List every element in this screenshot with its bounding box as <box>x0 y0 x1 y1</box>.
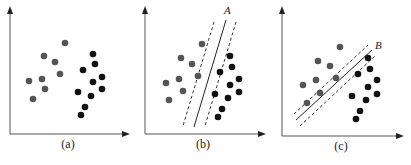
hyperplane-label-b: B <box>375 39 382 51</box>
black-point-b <box>215 114 222 121</box>
black-point-a <box>78 112 85 119</box>
black-point-a <box>75 89 82 96</box>
caption-b: (b) <box>183 137 223 152</box>
black-point-b <box>236 89 243 96</box>
gray-point-a <box>52 59 59 66</box>
black-point-a <box>99 74 106 81</box>
black-point-c <box>374 91 381 98</box>
gray-point-a <box>57 71 64 78</box>
data-points <box>26 40 381 123</box>
gray-point-c <box>327 63 334 70</box>
black-point-c <box>374 77 381 84</box>
black-point-b <box>212 91 219 98</box>
margin-line-b-lower <box>300 55 376 126</box>
black-point-a <box>90 79 97 86</box>
black-point-c <box>365 55 372 62</box>
black-point-c <box>353 116 360 123</box>
gray-point-c <box>333 75 340 82</box>
black-point-a <box>99 86 106 93</box>
panel-a-axes <box>7 6 130 137</box>
black-point-c <box>365 84 372 91</box>
black-point-c <box>363 97 370 104</box>
gray-point-b <box>166 97 173 104</box>
black-point-a <box>92 61 99 68</box>
gray-point-a <box>62 40 69 47</box>
gray-point-c <box>300 82 307 89</box>
black-point-b <box>217 69 224 76</box>
gray-point-c <box>304 100 311 107</box>
hyperplane-a-group <box>183 20 236 127</box>
black-point-a <box>80 67 87 74</box>
black-point-b <box>225 95 232 102</box>
gray-point-b <box>176 76 183 83</box>
gray-point-c <box>337 44 344 51</box>
gray-point-a <box>42 86 49 93</box>
gray-point-b <box>163 80 170 87</box>
black-point-a <box>88 93 95 100</box>
black-point-c <box>355 71 362 78</box>
black-point-b <box>227 53 234 60</box>
black-point-a <box>90 51 97 58</box>
gray-point-c <box>313 77 320 84</box>
black-point-c <box>367 66 374 73</box>
caption-c: (c) <box>321 139 361 154</box>
gray-point-b <box>180 88 187 95</box>
black-point-a <box>82 104 89 111</box>
gray-point-c <box>315 58 322 65</box>
hyperplane-label-a: A <box>224 4 231 16</box>
black-point-c <box>357 108 364 115</box>
gray-point-b <box>195 73 202 80</box>
hyperplane-b-group <box>294 45 376 126</box>
gray-point-a <box>41 53 48 60</box>
gray-point-a <box>26 78 33 85</box>
panel-b-axes <box>142 6 266 137</box>
gray-point-b <box>178 55 185 62</box>
gray-point-b <box>189 61 196 68</box>
black-point-b <box>219 106 226 113</box>
black-point-b <box>229 64 236 71</box>
black-point-c <box>349 93 356 100</box>
gray-point-c <box>317 90 324 97</box>
gray-point-b <box>199 41 206 48</box>
gray-point-a <box>30 96 37 103</box>
caption-a: (a) <box>48 137 88 152</box>
gray-point-a <box>39 76 46 83</box>
black-point-b <box>236 76 243 83</box>
black-point-b <box>227 82 234 89</box>
